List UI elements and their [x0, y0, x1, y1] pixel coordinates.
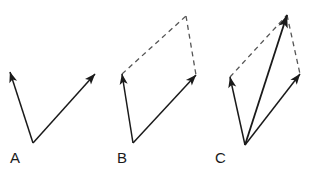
vector-diagram: A B C [0, 0, 311, 170]
vector-b-left [122, 74, 133, 143]
panel-c: C [215, 15, 300, 166]
vector-b-right [133, 75, 196, 143]
panel-a: A [10, 72, 95, 166]
panel-label-c: C [215, 149, 226, 166]
panel-b: B [117, 16, 196, 166]
vector-c-left [230, 77, 245, 145]
panel-label-a: A [10, 149, 20, 166]
vector-addition-figure: A B C [0, 0, 311, 170]
dashed-c-top-right [287, 15, 300, 74]
dashed-b-top-left [122, 16, 186, 74]
vector-a-left [10, 72, 33, 143]
dashed-b-top-right [186, 16, 196, 75]
vector-c-resultant [245, 15, 287, 145]
vector-c-right [245, 74, 300, 145]
vector-a-right [33, 74, 95, 143]
dashed-c-top-left [230, 15, 287, 77]
panel-label-b: B [117, 149, 127, 166]
